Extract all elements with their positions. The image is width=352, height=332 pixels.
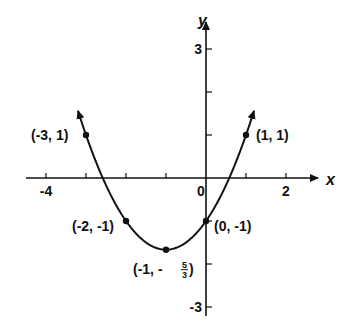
point-label: (0, -1) [214, 218, 251, 234]
x-tick-label: -4 [40, 183, 53, 199]
x-axis-label: x [325, 171, 336, 188]
parabola-graph: -4023-3xy (-3, 1)(-2, -1)(-1, -53)(0, -1… [0, 0, 352, 332]
data-point [243, 132, 249, 138]
fraction-numerator: 5 [182, 260, 187, 270]
point-label: (1, 1) [256, 127, 289, 143]
point-label: (-3, 1) [31, 127, 68, 143]
data-point [83, 132, 89, 138]
labeled-points: (-3, 1)(-2, -1)(-1, -53)(0, -1)(1, 1) [31, 127, 289, 280]
y-tick-label: -3 [190, 299, 203, 315]
point-label: (-2, -1) [72, 218, 114, 234]
data-point [163, 246, 169, 252]
point-label: (-1, - [133, 261, 163, 277]
y-axis-label: y [197, 12, 208, 29]
data-point [123, 218, 129, 224]
plot-area: -4023-3xy (-3, 1)(-2, -1)(-1, -53)(0, -1… [0, 0, 352, 332]
x-tick-label: 0 [197, 183, 205, 199]
y-tick-label: 3 [194, 41, 202, 57]
fraction-denominator: 3 [182, 270, 187, 280]
data-point [203, 218, 209, 224]
point-label-close: ) [189, 261, 194, 277]
x-tick-label: 2 [282, 183, 290, 199]
axes: -4023-3xy [26, 12, 336, 316]
